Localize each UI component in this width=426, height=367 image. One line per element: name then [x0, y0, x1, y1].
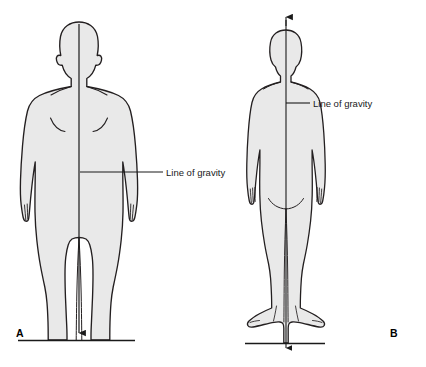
panel-letter-b: B [390, 327, 398, 339]
panel-a-group: Line of gravity A [0, 0, 225, 341]
line-of-gravity-figure: Line of gravity A [0, 0, 426, 367]
body-silhouette-anterior [0, 0, 138, 340]
panel-letter-a: A [16, 327, 24, 339]
anatomical-diagram-svg: Line of gravity A [0, 0, 426, 367]
line-of-gravity-label-b: Line of gravity [313, 98, 372, 109]
panel-b-group: Line of gravity B [245, 17, 398, 348]
line-of-gravity-label-a: Line of gravity [166, 167, 225, 178]
